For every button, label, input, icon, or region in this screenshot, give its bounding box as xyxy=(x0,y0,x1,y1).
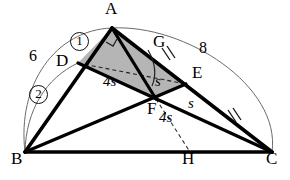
arc-length-label-6: 6 xyxy=(29,48,37,64)
point-label-a: A xyxy=(105,0,117,17)
circled-label-1: 1 xyxy=(70,32,89,51)
point-label-f: F xyxy=(147,100,156,117)
segment-label-4s-de: 4s xyxy=(103,74,116,89)
point-label-c: C xyxy=(266,150,277,167)
point-label-g: G xyxy=(153,33,165,50)
geometry-figure: A B C D E F G H 6 8 4s s s 4s 1 2 xyxy=(0,0,290,180)
segment-label-4s-fh: 4s xyxy=(159,110,172,125)
point-label-b: B xyxy=(11,150,22,167)
point-label-h: H xyxy=(182,150,194,167)
point-label-e: E xyxy=(192,64,202,81)
arc-length-label-8: 8 xyxy=(199,40,207,56)
point-label-d: D xyxy=(56,52,68,69)
circled-label-2: 2 xyxy=(29,85,48,104)
segment-label-s-fe: s xyxy=(155,74,161,89)
segment-label-s-ec: s xyxy=(188,96,194,111)
